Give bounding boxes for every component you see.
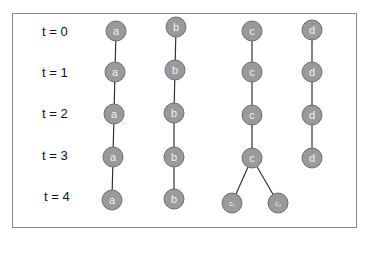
node-label: d [309, 66, 315, 78]
node-label: a [113, 25, 120, 37]
node-label: c₁ [229, 200, 236, 207]
node-d2: d [302, 105, 322, 125]
node-label: c [249, 66, 255, 78]
node-label: d [309, 152, 315, 164]
node-label: a [110, 151, 117, 163]
node-label: a [111, 108, 118, 120]
node-b2: b [164, 103, 184, 123]
node-label: c₂ [275, 200, 282, 207]
node-a4: a [102, 190, 122, 210]
node-label: b [171, 151, 177, 163]
node-label: a [112, 66, 119, 78]
lineage-graph: aaaaabbbbbccccc₁c₂dddd [0, 0, 372, 253]
node-a1: a [105, 62, 125, 82]
node-c4a: c₁ [222, 193, 242, 213]
node-b3: b [164, 147, 184, 167]
node-d0: d [302, 20, 322, 40]
node-label: d [309, 109, 315, 121]
node-c2: c [242, 105, 262, 125]
node-a0: a [106, 21, 126, 41]
node-label: b [171, 193, 177, 205]
node-a2: a [104, 104, 124, 124]
edges-layer [112, 27, 312, 203]
node-label: b [172, 64, 178, 76]
node-label: d [309, 24, 315, 36]
node-a3: a [103, 147, 123, 167]
node-c1: c [242, 62, 262, 82]
node-b0: b [166, 17, 186, 37]
node-c4b: c₂ [268, 193, 288, 213]
node-label: c [249, 109, 255, 121]
node-label: b [171, 107, 177, 119]
node-c0: c [242, 21, 262, 41]
node-b4: b [164, 189, 184, 209]
node-b1: b [165, 60, 185, 80]
node-label: c [249, 152, 255, 164]
node-c3: c [242, 148, 262, 168]
node-d3: d [302, 148, 322, 168]
nodes-layer: aaaaabbbbbccccc₁c₂dddd [102, 17, 322, 213]
node-label: b [173, 21, 179, 33]
node-d1: d [302, 62, 322, 82]
node-label: c [249, 25, 255, 37]
node-label: a [109, 194, 116, 206]
